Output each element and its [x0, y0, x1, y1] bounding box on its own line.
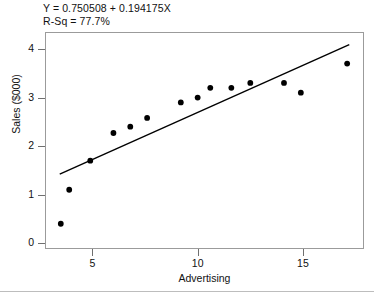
y-axis-tick: [38, 98, 45, 99]
y-axis-tick: [38, 195, 45, 196]
regression-annotation: Y = 0.750508 + 0.194175X R-Sq = 77.7%: [43, 2, 171, 28]
y-axis-tick-label: 1: [18, 189, 34, 200]
x-axis-tick: [92, 249, 93, 256]
x-axis-tick-label: 5: [82, 258, 102, 269]
y-axis-tick: [38, 49, 45, 50]
x-axis-tick-label: 10: [188, 258, 208, 269]
y-axis-tick-label: 2: [18, 140, 34, 151]
footer-divider: [0, 291, 374, 292]
x-axis-tick-label: 15: [293, 258, 313, 269]
y-axis-tick-label: 3: [18, 92, 34, 103]
y-axis-tick-label: 0: [18, 237, 34, 248]
y-axis-tick: [38, 146, 45, 147]
r-squared-text: R-Sq = 77.7%: [43, 15, 171, 28]
x-axis-tick: [198, 249, 199, 256]
regression-equation-text: Y = 0.750508 + 0.194175X: [43, 2, 171, 15]
x-axis-tick: [303, 249, 304, 256]
x-axis-label: Advertising: [45, 272, 364, 284]
y-axis-tick-label: 4: [18, 43, 34, 54]
scatter-plot-figure: Y = 0.750508 + 0.194175X R-Sq = 77.7% Sa…: [0, 0, 374, 296]
y-axis-tick: [38, 243, 45, 244]
plot-area-frame: [45, 32, 364, 249]
